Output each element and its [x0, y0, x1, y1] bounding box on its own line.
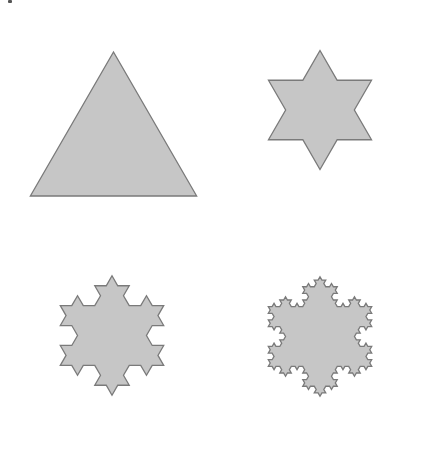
iteration-0-triangle — [30, 52, 196, 196]
iteration-2-snowflake — [60, 276, 163, 395]
koch-figure — [0, 0, 428, 455]
koch-shapes-group — [30, 51, 371, 397]
iteration-1-star — [268, 51, 371, 170]
iteration-3-snowflake — [268, 277, 371, 396]
